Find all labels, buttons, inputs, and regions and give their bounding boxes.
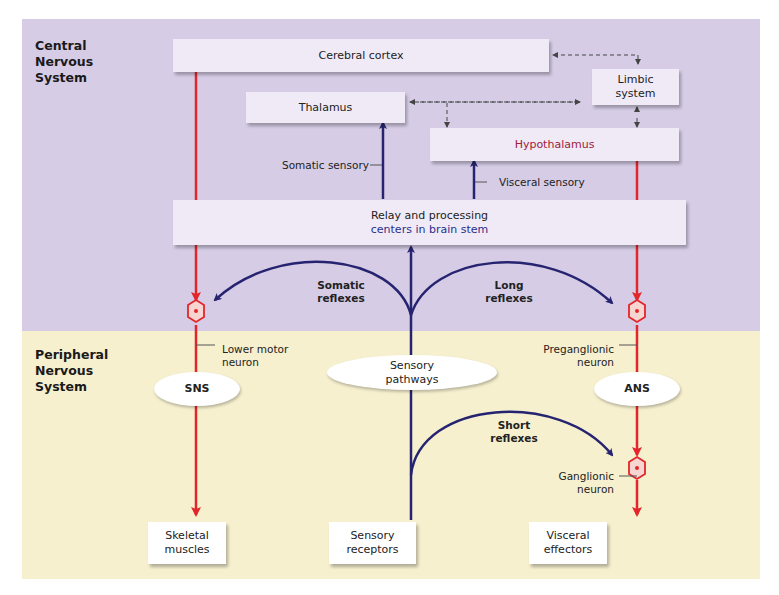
thalamus-box: Thalamus [246,92,405,123]
somatic-reflexes-label: Somaticreflexes [306,279,376,305]
ganglionic-neuron-label: Ganglionicneuron [551,470,614,496]
short-reflexes-label: Shortreflexes [484,419,544,445]
limbic-label-line: system [616,87,656,101]
hypothalamus-box: Hypothalamus [430,128,679,161]
visceral-sensory-label: Visceral sensory [499,176,585,189]
relay-box: Relay and processingcenters in brain ste… [173,200,686,245]
cerebral-cortex-box: Cerebral cortex [173,39,549,72]
neuron-cell-icon [629,300,645,322]
lower-motor-neuron-label: Lower motorneuron [222,343,288,369]
sensory-receptors-box: Sensoryreceptors [329,522,416,564]
limbic-label-line: Limbic [618,73,654,87]
preganglionic-neuron-label: Preganglionicneuron [538,343,614,369]
limbic-system-box: Limbicsystem [592,69,679,105]
relay-label-line: centers in brain stem [371,223,488,237]
hypothalamus-label: Hypothalamus [515,138,595,152]
thalamus-label: Thalamus [299,101,353,115]
ans-oval: ANS [594,372,680,406]
sensory-pathways-oval: Sensorypathways [327,355,497,390]
sns-oval: SNS [154,372,240,406]
skeletal-muscles-box: Skeletalmuscles [148,522,226,564]
relay-label-line: Relay and processing [371,209,488,223]
cerebral-cortex-label: Cerebral cortex [319,49,404,63]
neuron-cell-icon [188,300,204,322]
somatic-sensory-label: Somatic sensory [282,159,369,172]
long-reflexes-label: Longreflexes [474,279,544,305]
visceral-effectors-box: Visceraleffectors [529,522,607,564]
